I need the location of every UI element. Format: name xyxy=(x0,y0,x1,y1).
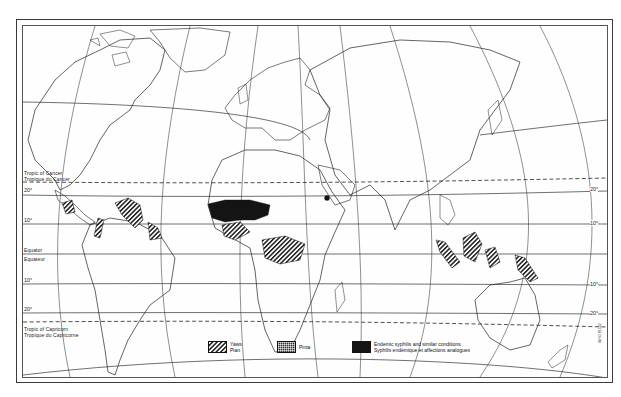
australia xyxy=(475,278,540,350)
equator-label-fr: Equateur xyxy=(24,256,45,262)
tropics xyxy=(23,178,607,327)
lat-10s-label-left: 10° xyxy=(24,277,32,283)
legend-endemic-syphilis: Endemic syphilis and similar conditions … xyxy=(352,341,470,353)
greenland xyxy=(150,28,230,72)
japan xyxy=(488,100,502,135)
figure-code: WHO 81542 xyxy=(598,323,602,343)
tropic-of-capricorn-label-fr: Tropique du Capricorne xyxy=(24,332,79,338)
legend-pinta-label: Pinta xyxy=(299,344,310,350)
parallels xyxy=(23,102,607,378)
madagascar xyxy=(335,282,345,312)
arabia xyxy=(318,165,355,205)
legend-endemic-syphilis-label-fr: Syphilis endémique et affections analogu… xyxy=(374,347,470,353)
lat-20s-label-right: 20° xyxy=(590,310,598,316)
arctic-islands xyxy=(90,30,135,66)
lat-10n-label-right: 10° xyxy=(590,220,598,226)
asia xyxy=(310,40,520,230)
lat-20n-label-left: 20° xyxy=(24,187,32,193)
endemic-syphilis-swatch xyxy=(352,341,371,353)
pinta-swatch xyxy=(277,341,296,353)
yaws-swatch xyxy=(208,341,227,353)
lat-10n-label-left: 10° xyxy=(24,217,32,223)
world-map xyxy=(0,0,621,397)
equator-label-en: Equator xyxy=(24,247,42,253)
north-america xyxy=(28,38,165,190)
lat-20n-label-right: 20° xyxy=(590,186,598,192)
lat-20s-label-left: 20° xyxy=(24,306,32,312)
yaws-regions xyxy=(62,198,538,282)
se-asia xyxy=(440,195,455,225)
legend-yaws-label-fr: Pian xyxy=(230,347,242,353)
tropic-of-cancer-label-fr: Tropique du Cancer xyxy=(24,176,70,182)
legend-pinta: Pinta xyxy=(277,341,310,353)
europe xyxy=(225,58,330,140)
lat-10s-label-right: 10° xyxy=(590,281,598,287)
legend-yaws: Yaws Pian xyxy=(208,341,242,353)
endemic-syphilis-regions xyxy=(208,196,330,223)
